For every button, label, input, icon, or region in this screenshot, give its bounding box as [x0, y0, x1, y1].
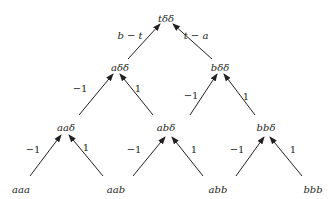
node-ab-d: abδ	[157, 122, 175, 133]
node-a-dd: aδδ	[111, 62, 129, 73]
edge-label: 1	[243, 91, 249, 102]
node-bbb: bbb	[303, 184, 322, 195]
edge-label: 1	[83, 142, 89, 153]
node-bb-d: bbδ	[257, 122, 276, 133]
arrow-abb-to-ab_d	[133, 137, 165, 176]
edge-label: −1	[230, 144, 245, 155]
arrow-aaa-to-aa_d	[30, 135, 61, 176]
arrow-aa_d-to-a_dd	[79, 74, 113, 115]
arrow-bbb-to-bb_d	[236, 137, 264, 176]
node-aaa: aaa	[12, 184, 30, 195]
node-b-dd: bδδ	[211, 62, 229, 73]
node-root: tδδ	[158, 13, 174, 24]
edge-label: −1	[73, 83, 88, 94]
edge-label: −1	[127, 144, 142, 155]
edge-label: 1	[135, 83, 141, 94]
edge-label: 1	[290, 144, 296, 155]
edge-label: t − a	[184, 30, 209, 41]
edge-labels-group: b − tt − a−11−11−11−11−11	[26, 30, 297, 155]
edge-label: −1	[184, 90, 199, 101]
node-aa-d: aaδ	[57, 122, 75, 133]
node-aab: aab	[107, 184, 125, 195]
nodes-group: tδδaδδbδδaaδabδbbδaaaaababbbbb	[12, 13, 323, 195]
arrow-ab_d-to-a_dd	[120, 74, 153, 115]
edge-label: −1	[26, 144, 41, 155]
node-abb: abb	[209, 184, 228, 195]
arrow-abb-to-ab_d	[172, 137, 203, 176]
tree-diagram: b − tt − a−11−11−11−11−11 tδδaδδbδδaaδab…	[0, 0, 335, 199]
edge-label: 1	[191, 144, 197, 155]
arrow-bb_d-to-b_dd	[224, 74, 255, 115]
arrow-bbb-to-bb_d	[270, 137, 302, 176]
edge-label: b − t	[117, 30, 143, 41]
edges-group	[30, 24, 302, 176]
